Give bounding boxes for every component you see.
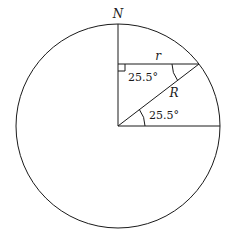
north-label: N [112, 7, 124, 21]
angle-top-label: 25.5° [128, 71, 158, 84]
r-label: r [155, 49, 162, 63]
angle-arc-top [172, 64, 178, 80]
R-label: R [168, 86, 178, 100]
right-angle-marker [118, 64, 125, 71]
angle-bottom-label: 25.5° [149, 109, 179, 122]
circle-diagram: N r R 25.5° 25.5° [0, 0, 227, 240]
angle-arc-bottom [139, 110, 145, 126]
